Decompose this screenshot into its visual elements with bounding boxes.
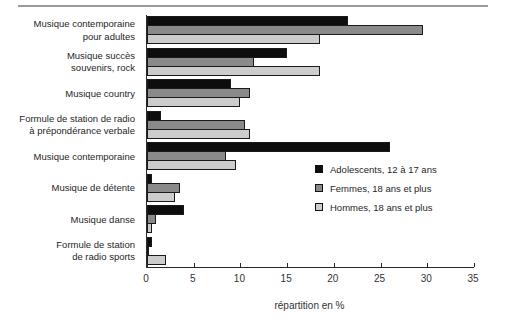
category-label: Musique country — [0, 78, 140, 110]
bar — [147, 97, 240, 107]
bar — [147, 129, 250, 139]
plot-area — [146, 15, 474, 268]
top-rule — [18, 5, 488, 7]
legend-label: Adolescents, 12 à 17 ans — [330, 164, 437, 175]
legend-label: Femmes, 18 ans et plus — [330, 183, 431, 194]
legend: Adolescents, 12 à 17 ansFemmes, 18 ans e… — [315, 163, 437, 220]
radio-format-bar-chart: Musique contemporainepour adultesMusique… — [0, 0, 506, 330]
bar — [147, 192, 175, 202]
category-label: Musique danse — [0, 204, 140, 236]
legend-item: Hommes, 18 ans et plus — [315, 201, 437, 213]
bar-group — [147, 110, 474, 142]
x-axis-tick — [334, 263, 335, 267]
x-axis-tick — [474, 263, 475, 267]
bar-group — [147, 15, 474, 47]
x-axis-tick — [240, 263, 241, 267]
legend-item: Femmes, 18 ans et plus — [315, 182, 437, 194]
bar-group — [147, 78, 474, 110]
category-label-line: Musique contemporaine — [0, 151, 135, 164]
category-label-line: souvenirs, rock — [0, 62, 135, 75]
category-label: Musique succèssouvenirs, rock — [0, 47, 140, 79]
x-axis-tick-label: 0 — [143, 273, 149, 284]
category-label-line: Musique succès — [0, 50, 135, 63]
category-label: Formule de station de radioà prépondéran… — [0, 110, 140, 142]
bar — [147, 160, 236, 170]
bar-group — [147, 236, 474, 268]
category-label: Formule de stationde radio sports — [0, 236, 140, 268]
x-axis-title: répartition en % — [146, 300, 473, 311]
x-axis-tick-label: 35 — [467, 273, 478, 284]
category-label-line: à prépondérance verbale — [0, 125, 135, 138]
category-label-line: Musique de détente — [0, 182, 135, 195]
category-label-line: Musique danse — [0, 214, 135, 227]
x-axis-tick — [287, 263, 288, 267]
bar — [147, 223, 152, 233]
x-axis-tick-label: 5 — [190, 273, 196, 284]
category-label-line: pour adultes — [0, 31, 135, 44]
category-label-line: Musique contemporaine — [0, 18, 135, 31]
x-axis-tick-label: 10 — [234, 273, 245, 284]
x-axis-tick-labels: 05101520253035 — [146, 273, 473, 285]
category-label: Musique contemporainepour adultes — [0, 15, 140, 47]
x-axis-tick-label: 15 — [281, 273, 292, 284]
x-axis-tick-label: 30 — [421, 273, 432, 284]
category-label: Musique contemporaine — [0, 141, 140, 173]
category-label: Musique de détente — [0, 173, 140, 205]
bar — [147, 66, 320, 76]
x-axis-tick — [381, 263, 382, 267]
category-label-line: Formule de station — [0, 239, 135, 252]
legend-swatch-icon — [315, 203, 323, 211]
x-axis-tick — [427, 263, 428, 267]
category-label-line: Musique country — [0, 88, 135, 101]
legend-label: Hommes, 18 ans et plus — [330, 202, 432, 213]
x-axis-tick — [147, 263, 148, 267]
category-axis-labels: Musique contemporainepour adultesMusique… — [0, 15, 140, 267]
legend-item: Adolescents, 12 à 17 ans — [315, 163, 437, 175]
x-axis-tick — [194, 263, 195, 267]
legend-swatch-icon — [315, 165, 323, 173]
category-label-line: Formule de station de radio — [0, 113, 135, 126]
x-axis-tick-label: 20 — [327, 273, 338, 284]
bar — [147, 34, 320, 44]
bar — [147, 255, 166, 265]
legend-swatch-icon — [315, 184, 323, 192]
category-label-line: de radio sports — [0, 251, 135, 264]
x-axis-tick-label: 25 — [374, 273, 385, 284]
bar-rows — [147, 15, 474, 267]
bar-group — [147, 47, 474, 79]
